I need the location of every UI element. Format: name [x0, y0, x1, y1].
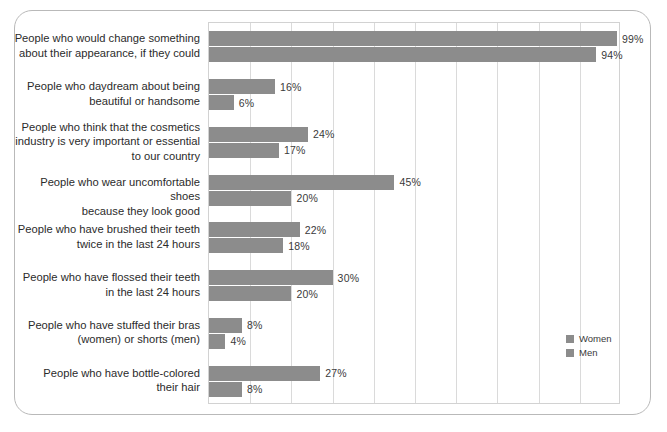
bar-value-label: 24%	[313, 128, 335, 140]
bar-men[interactable]: 20%	[209, 286, 619, 301]
bar-value-label: 20%	[296, 192, 318, 204]
category-label: People who would change something about …	[8, 31, 200, 60]
legend-swatch-icon	[566, 335, 574, 343]
bar-value-label: 16%	[280, 81, 302, 93]
bar-group: 99%94%	[209, 23, 619, 71]
bar-value-label: 27%	[325, 367, 347, 379]
bar-rect[interactable]	[209, 95, 234, 110]
bar-value-label: 22%	[305, 224, 327, 236]
legend-swatch-icon	[566, 349, 574, 357]
legend-item-women[interactable]: Women	[566, 333, 612, 344]
bar-group: 30%20%	[209, 262, 619, 310]
bar-value-label: 8%	[247, 319, 263, 331]
bar-value-label: 20%	[296, 288, 318, 300]
bar-rect[interactable]	[209, 366, 320, 381]
bar-rect[interactable]	[209, 191, 291, 206]
bar-men[interactable]: 20%	[209, 191, 619, 206]
bar-rect[interactable]	[209, 382, 242, 397]
bar-women[interactable]: 27%	[209, 366, 619, 381]
bar-rect[interactable]	[209, 222, 300, 237]
bar-value-label: 30%	[338, 272, 360, 284]
legend-label: Women	[579, 333, 612, 344]
bar-rect[interactable]	[209, 47, 596, 62]
bar-rect[interactable]	[209, 127, 308, 142]
bar-group: 45%20%	[209, 166, 619, 214]
category-label: People who have stuffed their bras (wome…	[8, 318, 200, 347]
bar-men[interactable]: 94%	[209, 47, 619, 62]
bar-men[interactable]: 4%	[209, 334, 619, 349]
bar-women[interactable]: 99%	[209, 31, 619, 46]
bar-group: 8%4%	[209, 310, 619, 358]
bar-women[interactable]: 16%	[209, 79, 619, 94]
bar-rect[interactable]	[209, 318, 242, 333]
grouped-bar-chart: 99%94%16%6%24%17%45%20%22%18%30%20%8%4%2…	[0, 0, 667, 432]
legend-label: Men	[579, 347, 597, 358]
plot-area: 99%94%16%6%24%17%45%20%22%18%30%20%8%4%2…	[208, 22, 620, 404]
bar-group: 24%17%	[209, 119, 619, 167]
category-label: People who have brushed their teeth twic…	[8, 222, 200, 251]
bar-women[interactable]: 45%	[209, 175, 619, 190]
bar-value-label: 45%	[399, 176, 421, 188]
category-label: People who think that the cosmetics indu…	[8, 120, 200, 164]
bar-value-label: 18%	[288, 240, 310, 252]
bar-value-label: 4%	[230, 335, 246, 347]
bar-rect[interactable]	[209, 31, 617, 46]
bar-men[interactable]: 17%	[209, 143, 619, 158]
category-label: People who have flossed their teeth in t…	[8, 270, 200, 299]
bar-value-label: 8%	[247, 383, 263, 395]
bar-women[interactable]: 22%	[209, 222, 619, 237]
bar-rect[interactable]	[209, 238, 283, 253]
bar-women[interactable]: 24%	[209, 127, 619, 142]
bar-women[interactable]: 30%	[209, 270, 619, 285]
bar-value-label: 6%	[239, 97, 255, 109]
bar-men[interactable]: 8%	[209, 382, 619, 397]
bar-rect[interactable]	[209, 334, 225, 349]
legend-item-men[interactable]: Men	[566, 347, 612, 358]
bar-rect[interactable]	[209, 270, 333, 285]
bar-group: 27%8%	[209, 357, 619, 405]
bar-value-label: 17%	[284, 144, 306, 156]
bar-men[interactable]: 6%	[209, 95, 619, 110]
bar-rect[interactable]	[209, 175, 394, 190]
bar-women[interactable]: 8%	[209, 318, 619, 333]
bar-value-label: 94%	[601, 49, 623, 61]
category-label: People who have bottle-colored their hai…	[8, 366, 200, 395]
legend: WomenMen	[566, 333, 612, 361]
bar-value-label: 99%	[622, 33, 644, 45]
category-label: People who daydream about being beautifu…	[8, 79, 200, 108]
bar-group: 16%6%	[209, 71, 619, 119]
bar-group: 22%18%	[209, 214, 619, 262]
category-label: People who wear uncomfortable shoes beca…	[8, 175, 200, 219]
bar-men[interactable]: 18%	[209, 238, 619, 253]
bar-rect[interactable]	[209, 143, 279, 158]
bar-rect[interactable]	[209, 79, 275, 94]
bar-rect[interactable]	[209, 286, 291, 301]
